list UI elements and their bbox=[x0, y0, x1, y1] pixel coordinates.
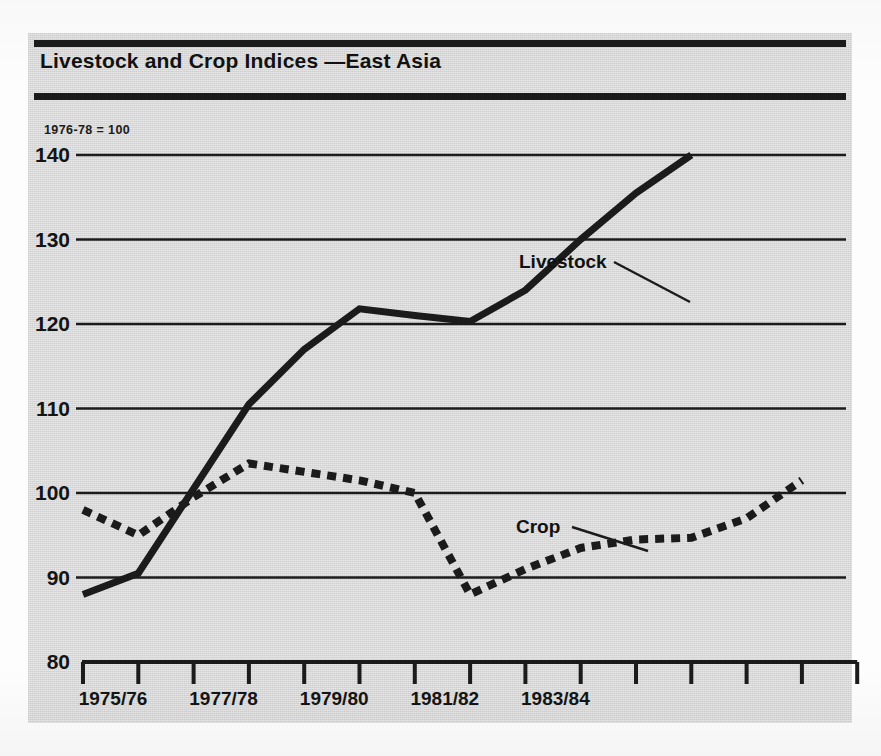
chart-page: Livestock and Crop Indices —East Asia 19… bbox=[0, 0, 881, 756]
chart-title: Livestock and Crop Indices —East Asia bbox=[40, 49, 441, 73]
x-tick-label-4: 1983/84 bbox=[521, 688, 590, 710]
title-rule-bottom bbox=[34, 93, 846, 100]
y-tick-label-120: 120 bbox=[10, 312, 70, 336]
series-label-livestock: Livestock bbox=[519, 251, 607, 273]
y-tick-label-80: 80 bbox=[10, 650, 70, 674]
x-tick-label-1: 1977/78 bbox=[189, 688, 258, 710]
y-tick-label-110: 110 bbox=[10, 397, 70, 421]
y-tick-label-140: 140 bbox=[10, 143, 70, 167]
y-tick-label-130: 130 bbox=[10, 228, 70, 252]
title-rule-top bbox=[34, 40, 846, 47]
chart-panel bbox=[28, 33, 852, 723]
x-tick-label-0: 1975/76 bbox=[79, 688, 148, 710]
x-tick-label-2: 1979/80 bbox=[300, 688, 369, 710]
x-tick-label-3: 1981/82 bbox=[410, 688, 479, 710]
y-tick-label-90: 90 bbox=[10, 566, 70, 590]
base-period-note: 1976-78 = 100 bbox=[44, 123, 130, 137]
series-label-crop: Crop bbox=[516, 516, 560, 538]
y-tick-label-100: 100 bbox=[10, 481, 70, 505]
